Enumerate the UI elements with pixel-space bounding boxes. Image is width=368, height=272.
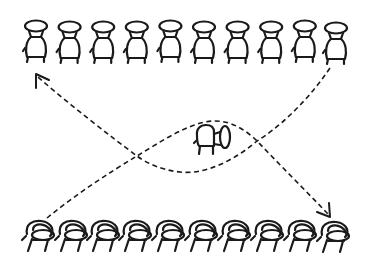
chair-icon [251, 221, 283, 251]
chair-icon [292, 21, 316, 63]
bottom-row-chairs [22, 221, 349, 252]
chair-icon [90, 22, 114, 64]
chair-icon [23, 21, 47, 63]
chair-icon [218, 221, 250, 251]
chair-icon [152, 221, 184, 251]
seating-diagram [0, 0, 368, 272]
chair-icon [258, 22, 282, 64]
dashed-path-bottom-left-to-bottom-right [47, 121, 330, 218]
chair-icon [191, 22, 215, 64]
top-row-chairs [23, 21, 347, 65]
chair-icon [87, 221, 119, 251]
center-chair-icon [194, 125, 230, 154]
chair-icon [22, 221, 54, 251]
chair-icon [185, 221, 217, 251]
chair-icon [323, 23, 347, 65]
chair-icon [57, 22, 81, 64]
arrowhead-icon [36, 74, 49, 88]
chair-icon [124, 22, 148, 64]
chair-icon [317, 222, 349, 252]
chair-icon [55, 221, 87, 251]
chair-icon [157, 21, 181, 63]
dashed-path-top-right-to-top-left [36, 68, 330, 172]
chair-icon [225, 22, 249, 64]
chair-icon [119, 221, 151, 251]
chair-icon [284, 221, 316, 251]
